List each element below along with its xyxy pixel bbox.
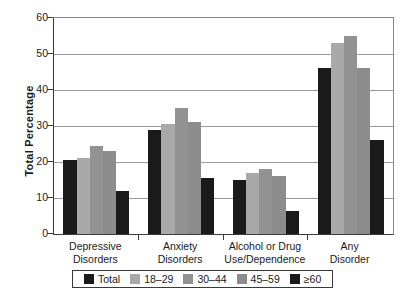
legend-item[interactable]: Total — [84, 274, 120, 285]
legend-item[interactable]: 45–59 — [237, 274, 280, 285]
y-axis-title: Total Percentage — [23, 56, 35, 206]
legend-label: 30–44 — [197, 274, 226, 285]
legend-label: ≥60 — [304, 274, 321, 285]
plot-area — [53, 17, 394, 235]
legend-swatch-icon — [290, 274, 300, 284]
x-label-line: Disorder — [295, 253, 404, 266]
bar — [116, 191, 129, 234]
bar — [331, 43, 344, 234]
legend-item[interactable]: 30–44 — [183, 274, 226, 285]
bar-group — [224, 18, 309, 234]
bar — [188, 122, 201, 234]
legend-label: Total — [98, 274, 120, 285]
y-tick-label: 0 — [8, 228, 48, 238]
legend-item[interactable]: 18–29 — [130, 274, 173, 285]
bar-group — [54, 18, 139, 234]
bar — [318, 68, 331, 234]
y-tick-label: 40 — [8, 84, 48, 94]
bar — [272, 176, 285, 234]
bar — [201, 178, 214, 234]
bar — [148, 130, 161, 234]
bar — [63, 160, 76, 234]
y-tick-label: 10 — [8, 192, 48, 202]
bar — [90, 146, 103, 234]
legend-swatch-icon — [237, 274, 247, 284]
bar-group — [308, 18, 393, 234]
x-label-line: Any — [295, 240, 404, 253]
bar — [77, 158, 90, 234]
bar — [259, 169, 272, 234]
y-tick-label: 20 — [8, 156, 48, 166]
bar — [370, 140, 383, 234]
y-tick-label: 50 — [8, 48, 48, 58]
legend-label: 45–59 — [251, 274, 280, 285]
y-tick-label: 30 — [8, 120, 48, 130]
bar — [246, 173, 259, 234]
bar — [357, 68, 370, 234]
legend-item[interactable]: ≥60 — [290, 274, 321, 285]
bar — [233, 180, 246, 234]
legend-swatch-icon — [84, 274, 94, 284]
bar — [103, 151, 116, 234]
bar — [161, 124, 174, 234]
legend-swatch-icon — [130, 274, 140, 284]
bar — [175, 108, 188, 234]
x-axis-label: AnyDisorder — [295, 240, 404, 265]
chart-legend: Total18–2930–4445–59≥60 — [72, 270, 333, 288]
legend-label: 18–29 — [144, 274, 173, 285]
bar-group — [139, 18, 224, 234]
y-tick-label: 60 — [8, 12, 48, 22]
bar — [344, 36, 357, 234]
legend-swatch-icon — [183, 274, 193, 284]
bar-chart-figure: Total Percentage 0102030405060 Depressiv… — [0, 0, 404, 294]
bar — [286, 211, 299, 234]
